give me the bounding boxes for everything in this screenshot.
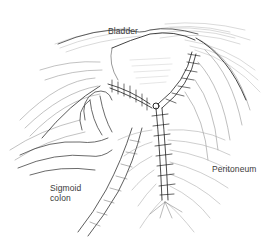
- suture-line-vertical: [156, 108, 168, 200]
- sigmoid-coils: [18, 91, 112, 175]
- label-sigmoid-line1: Sigmoid: [50, 183, 81, 193]
- suture-stitches-left: [112, 80, 147, 110]
- label-peritoneum: Peritoneum: [212, 164, 256, 174]
- left-peritoneal-folds: [10, 62, 102, 160]
- suture-end-radiation: [150, 202, 182, 218]
- peritoneal-closure-drawing: [0, 0, 273, 241]
- label-sigmoid-colon: Sigmoid colon: [50, 183, 81, 203]
- bladder-shading: [130, 58, 172, 84]
- label-sigmoid-line2: colon: [50, 193, 81, 203]
- sigmoid-haustra: [90, 140, 140, 226]
- suture-stitches-right: [166, 54, 200, 103]
- sigmoid-colon: [78, 128, 142, 236]
- peritoneum-radiating-folds: [118, 130, 232, 232]
- label-bladder: Bladder: [108, 26, 138, 36]
